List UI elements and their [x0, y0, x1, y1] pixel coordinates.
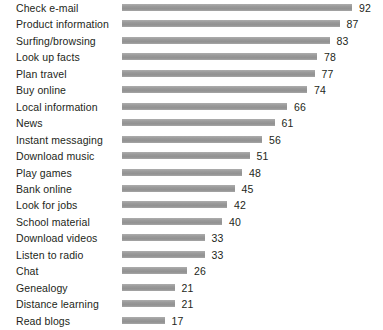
bar-row: Download videos33 [0, 230, 383, 247]
bar [122, 284, 175, 291]
bar-row: Download music51 [0, 148, 383, 165]
bar [122, 20, 340, 27]
bar-value-label: 48 [249, 165, 261, 182]
category-label: Surfing/browsing [16, 33, 96, 50]
bar-value-label: 21 [182, 296, 194, 313]
category-label: Bank online [16, 181, 72, 198]
bar-row: Check e-mail92 [0, 0, 383, 17]
category-label: Chat [16, 263, 39, 280]
bar-row: Look up facts78 [0, 49, 383, 66]
category-label: Plan travel [16, 66, 67, 83]
bar-value-label: 45 [242, 181, 254, 198]
bar [122, 37, 330, 44]
category-label: School material [16, 214, 90, 231]
bar [122, 317, 165, 324]
bar [122, 86, 307, 93]
bar [122, 234, 205, 241]
bar-row: Genealogy21 [0, 280, 383, 297]
category-label: Product information [16, 16, 109, 33]
bar-row: Bank online45 [0, 181, 383, 198]
bar-value-label: 78 [324, 49, 336, 66]
bar-value-label: 74 [314, 82, 326, 99]
bar-value-label: 21 [182, 280, 194, 297]
bar-value-label: 92 [359, 0, 371, 17]
category-label: Genealogy [16, 280, 68, 297]
category-label: Read blogs [16, 313, 70, 330]
category-label: Download videos [16, 230, 97, 247]
bar [122, 103, 287, 110]
bar-row: Local information66 [0, 99, 383, 116]
bar-row: Instant messaging56 [0, 132, 383, 149]
bar-value-label: 83 [337, 33, 349, 50]
bar [122, 53, 317, 60]
category-label: Buy online [16, 82, 66, 99]
category-label: Download music [16, 148, 94, 165]
category-label: Look for jobs [16, 197, 77, 214]
bar [122, 70, 315, 77]
bar [122, 185, 235, 192]
bar [122, 152, 250, 159]
bar-row: Plan travel77 [0, 66, 383, 83]
bar-value-label: 26 [194, 263, 206, 280]
category-label: Play games [16, 165, 72, 182]
bar-value-label: 66 [294, 99, 306, 116]
category-label: Listen to radio [16, 247, 83, 264]
category-label: Local information [16, 99, 98, 116]
bar-row: Product information87 [0, 16, 383, 33]
bar-value-label: 77 [322, 66, 334, 83]
bar-row: Play games48 [0, 165, 383, 182]
category-label: Check e-mail [16, 0, 78, 17]
category-label: Distance learning [16, 296, 99, 313]
bar-value-label: 56 [269, 132, 281, 149]
bar-row: Listen to radio33 [0, 247, 383, 264]
bar-row: Chat26 [0, 263, 383, 280]
bar-value-label: 17 [172, 313, 184, 330]
category-label: Instant messaging [16, 132, 103, 149]
bar-value-label: 87 [347, 16, 359, 33]
category-label: Look up facts [16, 49, 80, 66]
bar-value-label: 61 [282, 115, 294, 132]
bar-row: Distance learning21 [0, 296, 383, 313]
bar-row: Look for jobs42 [0, 197, 383, 214]
bar [122, 169, 242, 176]
category-label: News [16, 115, 43, 132]
bar [122, 201, 227, 208]
bar-chart: Check e-mail92Product information87Surfi… [0, 0, 383, 330]
bar-row: School material40 [0, 214, 383, 231]
bar-value-label: 51 [257, 148, 269, 165]
bar-value-label: 33 [212, 247, 224, 264]
bar-value-label: 42 [234, 197, 246, 214]
bar-rows: Check e-mail92Product information87Surfi… [0, 0, 383, 330]
bar-row: Read blogs17 [0, 313, 383, 330]
bar [122, 4, 352, 11]
bar [122, 136, 262, 143]
bar-row: News61 [0, 115, 383, 132]
bar [122, 218, 222, 225]
bar [122, 300, 175, 307]
bar-value-label: 33 [212, 230, 224, 247]
bar-row: Surfing/browsing83 [0, 33, 383, 50]
bar-row: Buy online74 [0, 82, 383, 99]
bar [122, 119, 275, 126]
bar [122, 267, 187, 274]
bar-value-label: 40 [229, 214, 241, 231]
bar [122, 251, 205, 258]
